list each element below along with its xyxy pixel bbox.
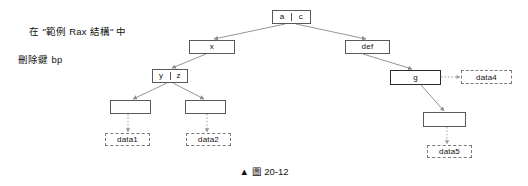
node-cell-def: def — [346, 43, 389, 51]
node-cell-y: y — [153, 72, 170, 80]
tree-node-leaf-left — [110, 100, 151, 114]
edge-x-to-yz — [172, 54, 206, 68]
data-node-data5: data5 — [427, 145, 472, 158]
node-cell-g: g — [391, 74, 440, 82]
tree-node-def: def — [345, 40, 390, 54]
data-node-data1: data1 — [105, 133, 150, 146]
annotation-text: 在 "範例 Rax 結構" 中 刪除鍵 bp — [18, 11, 127, 95]
tree-node-x: x — [189, 40, 235, 54]
node-cell-a: a — [273, 13, 291, 21]
rax-tree-figure: 在 "範例 Rax 結構" 中 刪除鍵 bp a c x y z def g d… — [0, 0, 528, 186]
node-cell-z: z — [170, 72, 188, 80]
edge-yz-to-leaf-left — [133, 83, 167, 99]
annotation-line-1: 在 "範例 Rax 結構" 中 — [29, 26, 126, 37]
data-node-data2: data2 — [186, 133, 231, 146]
tree-node-leaf-mid — [185, 100, 226, 114]
edge-g-to-leaf-right — [421, 85, 444, 111]
node-cell-x: x — [190, 43, 234, 51]
tree-node-g: g — [390, 70, 441, 85]
edge-def-to-g — [363, 54, 412, 69]
annotation-line-2: 刪除鍵 bp — [18, 53, 127, 67]
figure-caption: ▲ 圖 20-12 — [0, 165, 528, 179]
edge-yz-to-leaf-mid — [173, 83, 204, 99]
tree-node-root: a c — [272, 10, 311, 24]
edge-root-to-x — [214, 24, 285, 39]
edge-root-to-def — [296, 24, 366, 39]
tree-node-leaf-right — [423, 112, 466, 127]
node-cell-c: c — [291, 13, 310, 21]
tree-node-yz: y z — [152, 69, 188, 83]
dotted-edges — [128, 77, 460, 144]
solid-edges — [133, 24, 444, 111]
data-node-data4: data4 — [461, 70, 512, 84]
